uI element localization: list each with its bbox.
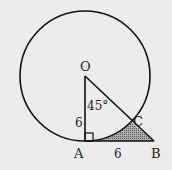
angle-label: 45° — [87, 99, 108, 113]
label-O: O — [80, 59, 91, 74]
label-B: B — [151, 146, 161, 161]
geometry-diagram: O A B C 45° 6 6 — [0, 0, 172, 170]
side-OA-label: 6 — [75, 116, 83, 130]
side-AB-label: 6 — [114, 147, 122, 161]
label-A: A — [73, 146, 84, 161]
right-angle-marker — [85, 133, 93, 141]
label-C: C — [133, 114, 143, 129]
